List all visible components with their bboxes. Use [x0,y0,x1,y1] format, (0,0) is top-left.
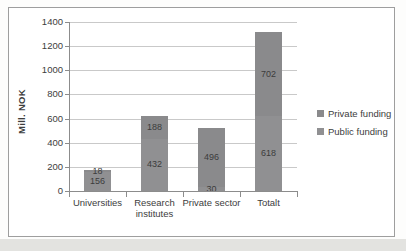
y-axis-tick-label: 800 [19,88,63,100]
y-axis-tick-label: 1000 [19,64,63,76]
data-label: 496 [197,152,227,163]
data-label: 156 [83,176,113,187]
y-axis-line [69,22,70,191]
category-label: Totalt [237,197,301,208]
y-axis-tick-label: 1400 [19,16,63,28]
x-axis-tick [240,192,241,197]
category-label: Private sector [180,197,244,208]
chart-page: Mill. NOK 020040060080010001200140015618… [0,0,406,251]
legend-label: Private funding [328,108,391,119]
x-axis-tick [183,192,184,197]
y-axis-tick-label: 200 [19,161,63,173]
data-label: 18 [83,166,113,177]
data-label: 702 [254,69,284,80]
y-axis-tick-label: 600 [19,113,63,125]
category-label: Research institutes [123,197,187,219]
y-axis-tick-label: 0 [19,185,63,197]
legend-item: Private funding [317,108,391,119]
data-label: 432 [140,159,170,170]
x-axis-tick [297,192,298,197]
data-label: 30 [197,184,227,195]
data-label: 618 [254,148,284,159]
gridline [70,22,297,23]
legend-swatch-private-funding-icon [317,110,324,117]
legend-swatch-public-funding-icon [317,128,324,135]
category-label: Universities [66,197,130,208]
chart-frame: Mill. NOK 020040060080010001200140015618… [8,7,395,237]
data-label: 188 [140,122,170,133]
x-axis-tick [69,192,70,197]
x-axis-tick [126,192,127,197]
plot-area: 020040060080010001200140015618Universiti… [9,8,394,236]
page-bottom-strip [0,239,406,251]
y-axis-tick-label: 1200 [19,40,63,52]
legend-item: Public funding [317,126,388,137]
y-axis-tick-label: 400 [19,137,63,149]
legend-label: Public funding [328,126,388,137]
